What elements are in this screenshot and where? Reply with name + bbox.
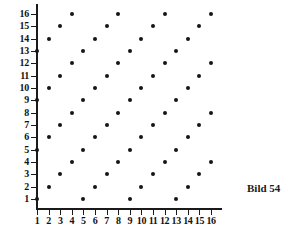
data-point <box>58 74 62 78</box>
data-point <box>128 148 132 152</box>
data-point <box>116 61 120 65</box>
y-tick-label-7: 7 <box>3 120 29 130</box>
data-point <box>105 123 109 127</box>
y-tick-label-16: 16 <box>3 9 29 19</box>
data-point <box>58 24 62 28</box>
data-point <box>186 37 190 41</box>
data-point <box>47 86 51 90</box>
data-point <box>105 24 109 28</box>
y-tick-8 <box>31 113 37 114</box>
data-point <box>174 148 178 152</box>
data-point <box>128 197 132 201</box>
data-point <box>81 148 85 152</box>
data-point <box>209 12 213 16</box>
data-point <box>174 197 178 201</box>
data-point <box>116 12 120 16</box>
data-point <box>186 135 190 139</box>
data-point <box>47 135 51 139</box>
y-tick-6 <box>31 137 37 138</box>
data-point <box>174 49 178 53</box>
data-point <box>197 74 201 78</box>
y-tick-label-4: 4 <box>3 157 29 167</box>
y-tick-2 <box>31 187 37 188</box>
y-tick-7 <box>31 125 37 126</box>
y-tick-label-5: 5 <box>3 145 29 155</box>
data-point <box>93 37 97 41</box>
data-point <box>174 98 178 102</box>
x-tick-label-16: 16 <box>204 216 218 226</box>
data-point <box>81 49 85 53</box>
data-point <box>197 24 201 28</box>
data-point <box>70 61 74 65</box>
data-point <box>35 148 39 152</box>
y-tick-15 <box>31 26 37 27</box>
data-point <box>151 123 155 127</box>
data-point <box>93 135 97 139</box>
y-tick-11 <box>31 76 37 77</box>
data-point <box>81 98 85 102</box>
data-point <box>58 172 62 176</box>
data-point <box>81 197 85 201</box>
data-point <box>139 185 143 189</box>
data-point <box>128 49 132 53</box>
data-point <box>70 12 74 16</box>
data-point <box>209 61 213 65</box>
data-point <box>186 185 190 189</box>
y-tick-14 <box>31 39 37 40</box>
data-point <box>186 86 190 90</box>
data-point <box>197 172 201 176</box>
y-tick-label-9: 9 <box>3 95 29 105</box>
data-point <box>151 74 155 78</box>
data-point <box>139 37 143 41</box>
figure-bild-54: 12345678910111213141516 1234567891011121… <box>0 0 306 238</box>
data-point <box>105 74 109 78</box>
data-point <box>70 160 74 164</box>
data-point <box>35 49 39 53</box>
y-tick-label-13: 13 <box>3 46 29 56</box>
y-tick-label-1: 1 <box>3 194 29 204</box>
y-axis-line <box>36 4 38 210</box>
data-point <box>209 111 213 115</box>
data-point <box>128 98 132 102</box>
data-point <box>35 197 39 201</box>
y-tick-label-14: 14 <box>3 34 29 44</box>
data-point <box>209 160 213 164</box>
y-tick-4 <box>31 162 37 163</box>
y-tick-10 <box>31 88 37 89</box>
data-point <box>105 172 109 176</box>
data-point <box>70 111 74 115</box>
data-point <box>93 86 97 90</box>
data-point <box>151 24 155 28</box>
data-point <box>35 98 39 102</box>
y-tick-label-12: 12 <box>3 58 29 68</box>
data-point <box>197 123 201 127</box>
data-point <box>163 12 167 16</box>
data-point <box>47 185 51 189</box>
y-tick-label-6: 6 <box>3 132 29 142</box>
data-point <box>139 86 143 90</box>
y-tick-label-2: 2 <box>3 182 29 192</box>
data-point <box>116 111 120 115</box>
figure-caption: Bild 54 <box>247 182 280 194</box>
data-point <box>151 172 155 176</box>
y-tick-3 <box>31 174 37 175</box>
y-tick-label-8: 8 <box>3 108 29 118</box>
data-point <box>163 61 167 65</box>
data-point <box>58 123 62 127</box>
y-tick-label-15: 15 <box>3 21 29 31</box>
y-tick-16 <box>31 14 37 15</box>
data-point <box>163 160 167 164</box>
y-tick-12 <box>31 63 37 64</box>
data-point <box>116 160 120 164</box>
y-tick-label-11: 11 <box>3 71 29 81</box>
y-tick-label-3: 3 <box>3 169 29 179</box>
data-point <box>139 135 143 139</box>
data-point <box>47 37 51 41</box>
y-tick-label-10: 10 <box>3 83 29 93</box>
data-point <box>163 111 167 115</box>
data-point <box>93 185 97 189</box>
